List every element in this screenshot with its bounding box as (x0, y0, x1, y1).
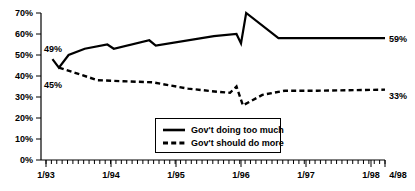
y-tick-label-60: 60% (15, 29, 33, 39)
x-tick-label-3: 1/96 (232, 170, 250, 180)
x-tick-label-6: 4/98 (389, 170, 407, 180)
y-tick-label-50: 50% (15, 50, 33, 60)
dashed-start-value-label: 45% (44, 80, 62, 90)
chart-container: 70% 60% 50% 40% 30% 20% 10% 0% (0, 0, 415, 191)
x-tick-label-4: 1/97 (297, 170, 315, 180)
legend-label-govt-doing-too-much: Gov't doing too much (191, 125, 284, 135)
line-chart: 70% 60% 50% 40% 30% 20% 10% 0% (0, 0, 415, 191)
x-axis-minor-ticks (46, 160, 385, 164)
x-axis (41, 160, 385, 167)
x-tick-label-5: 1/98 (362, 170, 380, 180)
x-tick-label-0: 1/93 (37, 170, 55, 180)
y-tick-label-0: 0% (20, 155, 33, 165)
legend-label-govt-should-do-more: Gov't should do more (191, 138, 284, 148)
solid-end-value-label: 59% (389, 34, 407, 44)
y-tick-label-20: 20% (15, 113, 33, 123)
dashed-end-value-label: 33% (389, 91, 407, 101)
chart-legend: Gov't doing too much Gov't should do mor… (156, 119, 284, 153)
y-tick-label-40: 40% (15, 71, 33, 81)
x-tick-label-2: 1/95 (167, 170, 185, 180)
solid-start-value-label: 49% (44, 44, 62, 54)
y-axis-labels: 70% 60% 50% 40% 30% 20% 10% 0% (15, 8, 33, 165)
x-tick-label-1: 1/94 (102, 170, 120, 180)
series-line-govt-doing-too-much (52, 13, 385, 68)
y-tick-label-30: 30% (15, 92, 33, 102)
y-tick-label-70: 70% (15, 8, 33, 18)
y-tick-label-10: 10% (15, 134, 33, 144)
y-axis (36, 13, 41, 160)
x-axis-labels: 1/93 1/94 1/95 1/96 1/97 1/98 4/98 (37, 170, 407, 180)
series-line-govt-should-do-more (59, 68, 385, 106)
